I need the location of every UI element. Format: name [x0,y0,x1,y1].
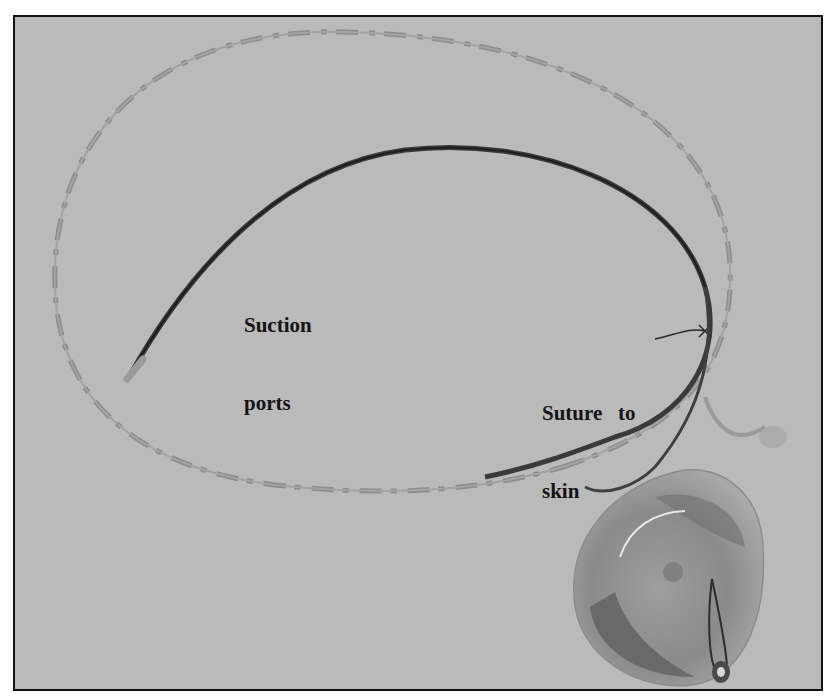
label-suction-ports: Suction ports [244,260,312,468]
label-suction-ports-line2: ports [244,390,312,416]
label-suture-to-skin-line1: Suture to [542,400,636,426]
drain-photo [15,17,821,689]
label-suction-ports-line1: Suction [244,312,312,338]
label-suture-to-skin: Suture to skin [542,348,636,556]
photo-frame: Suction ports Suture to skin [13,15,823,691]
label-suture-to-skin-line2: skin [542,478,636,504]
